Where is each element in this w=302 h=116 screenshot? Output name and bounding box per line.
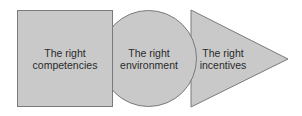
circle-label-line2: environment <box>110 59 188 71</box>
triangle-label-line1: The right <box>193 47 253 59</box>
circle-label: The right environment <box>110 47 188 71</box>
square-label-line2: competencies <box>17 59 113 71</box>
square-label-line1: The right <box>17 47 113 59</box>
circle-label-line1: The right <box>110 47 188 59</box>
triangle-label-line2: incentives <box>193 59 253 71</box>
triangle-label: The right incentives <box>193 47 253 71</box>
square-label: The right competencies <box>17 47 113 71</box>
